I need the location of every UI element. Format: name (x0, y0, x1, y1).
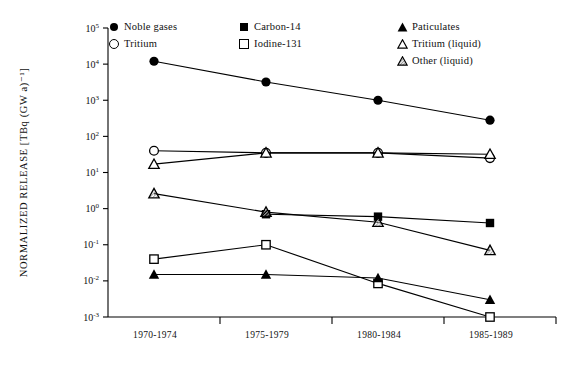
series-other-liquid (149, 188, 495, 254)
y-tick-label: 103 (86, 94, 100, 106)
marker-square-open (150, 255, 158, 263)
series-iodine-131 (150, 241, 494, 322)
series-line (154, 245, 490, 317)
chart-figure: Noble gases Tritium Carbon-14 Iodine-131… (0, 0, 581, 367)
marker-square-filled (486, 219, 494, 227)
marker-circle-filled (261, 77, 270, 86)
series-tritium-liquid (149, 148, 495, 169)
marker-circle-filled (485, 116, 494, 125)
x-category-label: 1980-1984 (357, 330, 401, 340)
series-line (154, 153, 490, 164)
marker-circle-filled (149, 57, 158, 66)
plot-area: 10510410310210110010-110-210-3 1970-1974… (0, 0, 581, 367)
y-tick-label: 100 (86, 202, 100, 214)
x-category-label: 1985-1989 (469, 330, 513, 340)
y-tick-label: 10-1 (83, 238, 99, 250)
series-line (154, 61, 490, 120)
marker-circle-filled (373, 96, 382, 105)
marker-square-open (262, 241, 270, 249)
marker-circle-open (150, 146, 159, 155)
y-tick-label: 105 (86, 22, 100, 34)
series-tritium (150, 146, 495, 162)
y-axis-title: NORMALIZED RELEASE [TBq (GW a)⁻¹] (18, 68, 30, 278)
y-tick-label: 102 (86, 130, 100, 142)
data-series (149, 57, 495, 322)
series-paticulates (149, 269, 495, 304)
marker-square-open (486, 313, 494, 321)
x-category-label: 1970-1974 (133, 330, 177, 340)
series-line (154, 194, 490, 251)
y-tick-label: 104 (86, 58, 100, 70)
series-noble-gases (149, 57, 494, 125)
x-category-label: 1975-1979 (245, 330, 289, 340)
series-line (154, 275, 490, 300)
marker-triangle-hatched (149, 188, 159, 197)
y-tick-label: 101 (86, 166, 100, 178)
y-tick-label: 10-2 (83, 274, 99, 286)
series-line (154, 151, 490, 158)
y-tick-label: 10-3 (83, 311, 99, 323)
